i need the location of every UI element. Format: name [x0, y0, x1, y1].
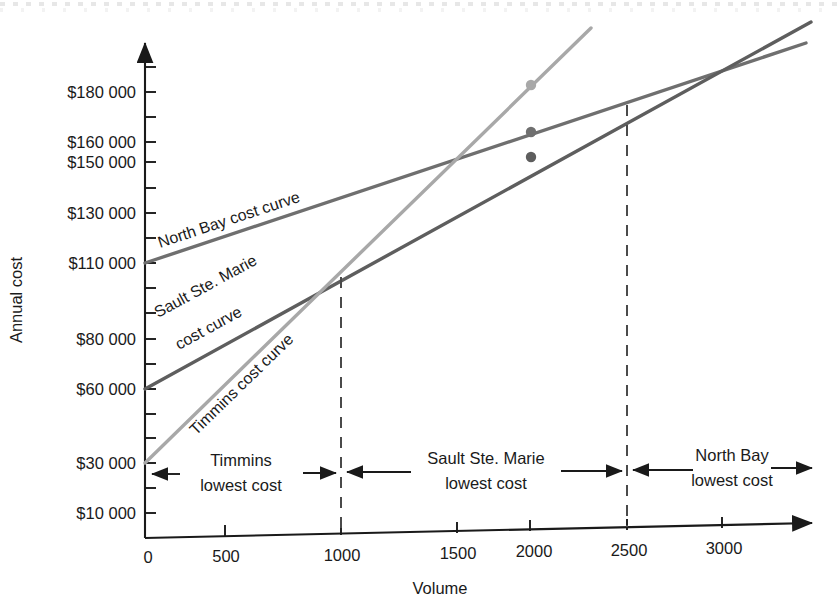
series-line-north-bay [145, 43, 806, 263]
region-label-sault-line1: Sault Ste. Marie [427, 449, 544, 467]
y-tick-label-110000: $110 000 [68, 254, 136, 272]
y-axis-title: Annual cost [7, 256, 25, 343]
region-label-northbay-line1: North Bay [695, 446, 769, 464]
curve-label-sault-ste-marie-line2: cost curve [172, 303, 244, 353]
cost-curves [145, 22, 811, 463]
x-axis-title: Volume [412, 579, 467, 597]
x-tick-label-1500: 1500 [440, 544, 477, 562]
marker-sault-ste-marie-2000 [526, 152, 536, 162]
curve-label-timmins: Timmins cost curve [186, 330, 296, 438]
chart-canvas: $180 000 $160 000 $150 000 $130 000 $110… [0, 0, 839, 603]
region-label-timmins-line2: lowest cost [200, 476, 282, 494]
x-tick-label-3000: 3000 [706, 539, 743, 557]
cost-volume-breakeven-chart: $180 000 $160 000 $150 000 $130 000 $110… [0, 0, 839, 603]
y-tick-label-130000: $130 000 [67, 204, 136, 222]
breakeven-guides [341, 105, 627, 532]
x-tick-label-0: 0 [143, 548, 152, 566]
x-tick-label-2000: 2000 [516, 542, 553, 560]
series-line-timmins [145, 28, 591, 463]
x-tick-label-1000: 1000 [324, 546, 361, 564]
y-tick-label-10000: $10 000 [76, 504, 136, 522]
x-axis-tick-labels: 0 500 1000 1500 2000 2500 3000 [143, 539, 742, 566]
x-tick-label-2500: 2500 [611, 541, 648, 559]
region-label-northbay-line2: lowest cost [691, 471, 773, 489]
y-axis-ticks [145, 67, 156, 513]
y-tick-label-60000: $60 000 [76, 380, 136, 398]
region-label-timmins-line1: Timmins [210, 451, 272, 469]
y-tick-label-160000: $160 000 [67, 133, 136, 151]
region-label-sault-line2: lowest cost [445, 474, 527, 492]
marker-north-bay-2000 [526, 127, 536, 137]
y-axis-tick-labels: $180 000 $160 000 $150 000 $130 000 $110… [67, 83, 136, 522]
y-tick-label-150000: $150 000 [67, 153, 136, 171]
y-tick-label-80000: $80 000 [76, 330, 136, 348]
x-tick-label-500: 500 [212, 547, 240, 565]
marker-timmins-2000 [526, 80, 536, 90]
y-tick-label-30000: $30 000 [76, 454, 136, 472]
y-tick-label-180000: $180 000 [67, 83, 136, 101]
curve-label-sault-ste-marie-line1: Sault Ste. Marie [151, 251, 259, 320]
x-axis-line [145, 523, 812, 538]
